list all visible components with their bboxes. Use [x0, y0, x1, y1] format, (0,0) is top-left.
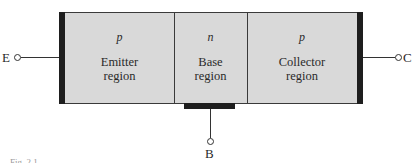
base-terminal-icon	[207, 138, 214, 145]
base-type-label: n	[174, 30, 247, 45]
collector-terminal-label: C	[403, 51, 412, 64]
base-lead	[210, 109, 211, 138]
collector-contact	[357, 12, 363, 104]
figure-caption: Fig. 2.1	[10, 157, 38, 163]
base-terminal-label: B	[205, 147, 214, 160]
base-name-label: Base region	[174, 55, 247, 83]
collector-name-label: Collector region	[247, 55, 357, 83]
emitter-terminal-icon	[14, 54, 21, 61]
collector-type-label: p	[247, 30, 357, 45]
emitter-terminal-label: E	[2, 51, 10, 64]
collector-terminal-icon	[395, 54, 402, 61]
emitter-name-label: Emitter region	[65, 55, 174, 83]
emitter-type-label: p	[65, 30, 174, 45]
emitter-lead	[21, 57, 59, 58]
collector-lead	[363, 57, 395, 58]
